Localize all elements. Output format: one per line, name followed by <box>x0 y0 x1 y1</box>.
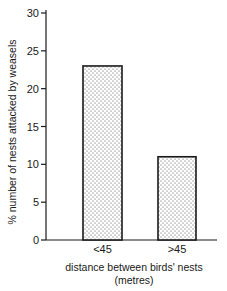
bar <box>83 66 122 240</box>
y-tick-label: 5 <box>33 196 39 208</box>
x-tick-label: >45 <box>168 243 187 255</box>
y-tick-label: 25 <box>27 45 39 57</box>
bars <box>83 66 196 240</box>
x-tick-label: <45 <box>93 243 112 255</box>
x-axis-unit: (metres) <box>114 274 153 286</box>
y-axis: 051015202530 <box>27 7 46 246</box>
y-tick-label: 20 <box>27 83 39 95</box>
y-tick-label: 0 <box>33 234 39 246</box>
bar <box>158 157 196 240</box>
y-axis-title: % number of nests attacked by weasels <box>6 39 18 224</box>
y-tick-label: 30 <box>27 7 39 19</box>
y-tick-label: 15 <box>27 121 39 133</box>
x-axis-title: distance between birds' nests <box>65 261 202 273</box>
y-tick-label: 10 <box>27 158 39 170</box>
x-tick-labels: <45>45 <box>93 243 186 255</box>
bar-chart: 051015202530 <45>45 distance between bir… <box>0 0 227 291</box>
